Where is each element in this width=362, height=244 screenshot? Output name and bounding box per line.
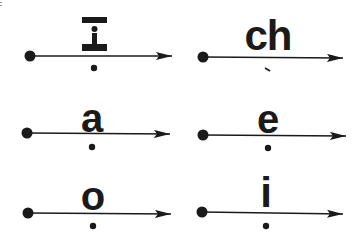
letter-ch: ch [244,15,291,57]
letter-o: o [81,176,105,216]
start-dot [197,207,208,218]
start-dot [22,128,33,139]
diagram-canvas: ch a e o i [0,0,362,244]
start-dot [23,208,34,219]
below-dot [90,223,96,229]
below-dot [263,223,269,229]
arrow-line [202,212,343,214]
start-dot [198,130,209,141]
below-dot [265,145,271,151]
diagram-svg [0,0,362,244]
below-tick [265,68,270,71]
letter-e: e [257,99,279,139]
letter-I-glyph [82,17,107,51]
start-dot [25,51,36,62]
letter-a: a [81,98,103,138]
start-dot [198,52,209,63]
letter-i: i [260,172,272,214]
below-dot [91,65,97,71]
item-I [25,17,173,71]
below-dot [89,144,95,150]
